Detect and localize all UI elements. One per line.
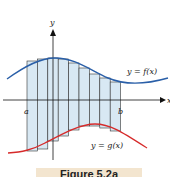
b-label: b <box>118 107 123 116</box>
f-curve-label: y = f(x) <box>126 67 157 76</box>
g-curve-label: y = g(x) <box>90 141 123 150</box>
x-axis-arrow-icon <box>160 97 166 103</box>
y-axis-arrow-icon <box>50 29 56 36</box>
y-axis-label: y <box>49 18 55 27</box>
x-axis-label: x <box>167 96 170 105</box>
figure-caption: Figure 5.2a <box>36 168 142 177</box>
area-between-curves-figure: y x a b y = f(x) y = g(x) <box>0 0 170 177</box>
a-label: a <box>24 107 29 116</box>
approximating-rectangles <box>27 58 121 151</box>
